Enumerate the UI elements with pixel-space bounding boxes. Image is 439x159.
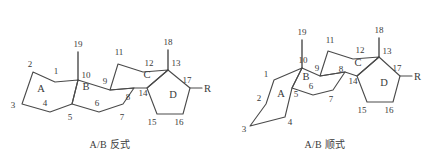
atom-number-4-cis: 4 xyxy=(288,117,293,127)
atom-number-6-trans: 6 xyxy=(95,98,100,108)
atom-number-11-trans: 11 xyxy=(115,47,124,57)
ring-label-b-trans: B xyxy=(82,81,89,92)
atom-number-8-trans: 8 xyxy=(126,92,131,102)
atom-number-3-trans: 3 xyxy=(11,100,16,110)
atom-number-16-cis: 16 xyxy=(385,105,395,115)
atom-number-17-trans: 17 xyxy=(183,75,193,85)
caption-cis: A/B 顺式 xyxy=(305,138,346,150)
atom-number-16-trans: 16 xyxy=(175,117,185,127)
atom-number-13-cis: 13 xyxy=(383,46,393,56)
ring-label-c-cis: C xyxy=(354,57,361,68)
atom-number-4-trans: 4 xyxy=(43,98,48,108)
structure-cis: A B C D 1 2 3 4 5 6 7 8 9 10 11 12 13 14… xyxy=(242,25,421,134)
atom-number-15-cis: 15 xyxy=(358,105,368,115)
atom-number-13-trans: 13 xyxy=(172,58,182,68)
atom-number-7-cis: 7 xyxy=(329,94,334,104)
atom-number-19-cis: 19 xyxy=(298,27,308,37)
atom-number-2-cis: 2 xyxy=(257,93,262,103)
ring-label-a-cis: A xyxy=(277,88,285,99)
atom-number-1-cis: 1 xyxy=(264,69,269,79)
atom-number-9-trans: 9 xyxy=(103,76,108,86)
ring-c-bond-path-cis xyxy=(320,51,379,76)
atom-number-17-cis: 17 xyxy=(393,63,403,73)
ring-label-a-trans: A xyxy=(37,83,45,94)
atom-number-8-cis: 8 xyxy=(339,64,344,74)
atom-number-10-cis: 10 xyxy=(299,55,309,65)
atom-number-18-trans: 18 xyxy=(164,37,174,47)
steroid-structures-figure: A B C D 1 2 3 4 5 6 7 8 9 10 11 12 13 14… xyxy=(0,0,439,159)
atom-number-19-trans: 19 xyxy=(74,39,84,49)
atom-number-12-trans: 12 xyxy=(145,58,154,68)
atom-number-10-trans: 10 xyxy=(82,70,92,80)
atom-number-14-cis: 14 xyxy=(349,76,359,86)
ring-a-bond-path-trans xyxy=(22,72,78,112)
caption-trans: A/B 反式 xyxy=(90,138,131,150)
atom-number-14-trans: 14 xyxy=(139,88,149,98)
substituent-label-r-trans: R xyxy=(204,83,211,94)
ring-label-c-trans: C xyxy=(143,69,150,80)
atom-number-9-cis: 9 xyxy=(315,63,320,73)
ring-label-d-trans: D xyxy=(169,89,177,100)
atom-number-7-trans: 7 xyxy=(120,112,125,122)
atom-number-3-cis: 3 xyxy=(242,124,247,134)
atom-number-5-trans: 5 xyxy=(68,112,73,122)
atom-number-12-cis: 12 xyxy=(356,45,365,55)
atom-number-1-trans: 1 xyxy=(54,66,59,76)
atom-number-15-trans: 15 xyxy=(148,117,158,127)
atom-number-6-cis: 6 xyxy=(309,81,314,91)
substituent-label-r-cis: R xyxy=(414,71,421,82)
atom-number-5-cis: 5 xyxy=(294,89,299,99)
structure-trans: A B C D 1 2 3 4 5 6 7 8 9 10 11 12 13 14… xyxy=(11,37,211,127)
ring-label-d-cis: D xyxy=(380,77,388,88)
atom-number-18-cis: 18 xyxy=(375,25,385,35)
atom-number-11-cis: 11 xyxy=(326,35,335,45)
atom-number-2-trans: 2 xyxy=(28,59,33,69)
